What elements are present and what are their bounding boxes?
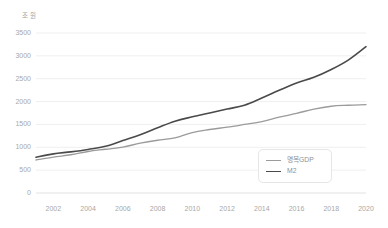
x-tick-label: 2010 [185, 205, 201, 212]
x-tick-label: 2014 [254, 205, 270, 212]
legend-item[interactable]: M2 [266, 166, 323, 177]
y-tick-label: 1000 [15, 143, 31, 150]
x-tick-label: 2008 [150, 205, 166, 212]
y-axis-unit-label: 조 원 [22, 10, 36, 20]
legend-label: 명목GDP [287, 157, 314, 164]
x-tick-label: 2004 [80, 205, 96, 212]
x-axis-tick-labels: 2002200420062008201020122014201620182020 [0, 205, 388, 217]
legend-line-swatch-icon [266, 160, 281, 161]
y-tick-label: 2000 [15, 98, 31, 105]
x-tick-label: 2012 [219, 205, 235, 212]
y-tick-label: 2500 [15, 75, 31, 82]
x-tick-label: 2018 [323, 205, 339, 212]
y-tick-label: 3000 [15, 52, 31, 59]
y-tick-label: 3500 [15, 29, 31, 36]
x-tick-label: 2016 [289, 205, 305, 212]
y-tick-label: 500 [19, 166, 31, 173]
x-tick-label: 2006 [115, 205, 131, 212]
legend-line-swatch-icon [266, 171, 281, 172]
legend-label: M2 [287, 168, 296, 175]
y-tick-label: 0 [27, 189, 31, 196]
series-line [36, 47, 366, 158]
chart-legend[interactable]: 명목GDPM2 [258, 149, 332, 183]
y-tick-label: 1500 [15, 120, 31, 127]
x-tick-label: 2020 [358, 205, 374, 212]
x-tick-label: 2002 [46, 205, 62, 212]
line-chart: 조 원 3500300025002000150010005000 2002200… [0, 0, 388, 228]
y-axis-tick-labels: 3500300025002000150010005000 [0, 33, 31, 193]
legend-item[interactable]: 명목GDP [266, 155, 323, 166]
